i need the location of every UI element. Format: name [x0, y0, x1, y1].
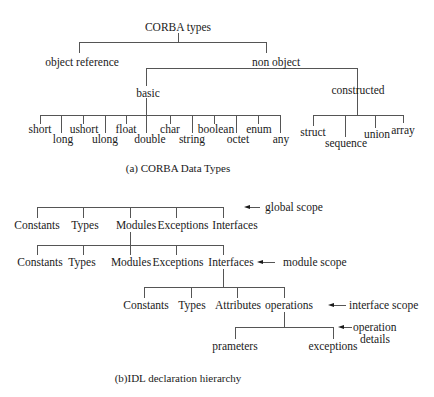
- node-object-reference: object reference: [45, 56, 119, 68]
- leaf-char: char: [160, 123, 180, 135]
- node-corba-types: CORBA types: [145, 21, 211, 33]
- arrow-left-icon: [328, 303, 334, 307]
- global-exceptions: Exceptions: [157, 219, 208, 231]
- leaf-array: array: [391, 124, 415, 136]
- interface-attributes: Attributes: [215, 299, 261, 311]
- leaf-ulong: ulong: [92, 133, 118, 145]
- corba-diagram: CORBA types object reference non object …: [0, 0, 434, 397]
- global-constants: Constants: [14, 219, 59, 231]
- leaf-union: union: [364, 128, 390, 140]
- annotation-module-scope: module scope: [283, 256, 347, 268]
- arrow-left-icon: [257, 260, 263, 264]
- caption-a: (a) CORBA Data Types: [126, 162, 230, 174]
- module-modules: Modules: [111, 256, 151, 268]
- annotation-interface-scope: interface scope: [349, 299, 418, 311]
- leaf-enum: enum: [246, 123, 272, 135]
- annotation-operation: operation: [353, 321, 396, 333]
- leaf-struct: struct: [300, 126, 326, 138]
- interface-types: Types: [178, 299, 205, 311]
- arrow-left-icon: [244, 205, 250, 209]
- annotation-global-scope: global scope: [265, 201, 323, 213]
- node-constructed: constructed: [331, 84, 384, 96]
- interface-operations: operations: [265, 299, 313, 311]
- operation-parameters: prameters: [212, 340, 257, 352]
- arrow-left-icon: [338, 325, 344, 329]
- node-basic: basic: [136, 87, 160, 99]
- operation-exceptions: exceptions: [308, 340, 357, 352]
- caption-b: (b)IDL declaration hierarchy: [115, 372, 242, 384]
- module-interfaces: Interfaces: [208, 256, 253, 268]
- module-constants: Constants: [17, 256, 62, 268]
- module-types: Types: [68, 256, 95, 268]
- node-non-object: non object: [252, 56, 300, 68]
- global-types: Types: [71, 219, 98, 231]
- module-exceptions: Exceptions: [152, 256, 203, 268]
- global-modules: Modules: [116, 219, 156, 231]
- leaf-any: any: [273, 133, 290, 145]
- leaf-sequence: sequence: [325, 137, 367, 149]
- annotation-details: details: [360, 333, 390, 345]
- interface-constants: Constants: [123, 299, 168, 311]
- leaf-short: short: [29, 123, 52, 135]
- global-interfaces: Interfaces: [212, 219, 257, 231]
